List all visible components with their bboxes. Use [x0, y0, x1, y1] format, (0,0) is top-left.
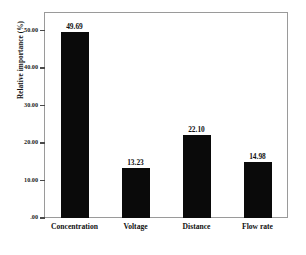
- y-tick-mark: [40, 67, 45, 69]
- bar: [61, 32, 89, 218]
- bar-value-label: 13.23: [111, 158, 161, 167]
- y-tick-mark: [40, 217, 45, 219]
- bar: [122, 168, 150, 218]
- chart-screenshot: Relative importance (%) .0010.0020.0030.…: [0, 0, 306, 255]
- bar-value-label: 22.10: [172, 125, 222, 134]
- y-tick-mark: [40, 105, 45, 107]
- y-tick-label: 30.00: [24, 101, 38, 108]
- y-tick-label: 40.00: [24, 63, 38, 70]
- bar: [183, 135, 211, 218]
- bar-value-label: 49.69: [50, 22, 100, 31]
- bar-value-label: 14.98: [233, 152, 283, 161]
- y-tick-label: .00: [30, 213, 38, 220]
- y-tick-label: 20.00: [24, 138, 38, 145]
- x-axis-label: Flow rate: [218, 222, 298, 231]
- y-tick-mark: [40, 30, 45, 32]
- y-tick-mark: [40, 142, 45, 144]
- y-tick-mark: [40, 180, 45, 182]
- y-tick-label: 10.00: [24, 176, 38, 183]
- bar: [244, 162, 272, 218]
- y-tick-label: 50.00: [24, 26, 38, 33]
